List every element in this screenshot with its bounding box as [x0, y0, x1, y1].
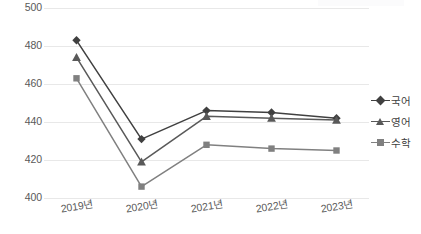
legend-item-label: 수학	[390, 137, 411, 149]
plot-area	[44, 8, 369, 198]
legend-item-1[interactable]: 국어	[371, 90, 421, 111]
y-axis-tick-label: 500	[8, 2, 42, 13]
legend-item-3[interactable]: 수학	[371, 132, 421, 153]
gridline	[44, 122, 369, 123]
y-axis-tick-label: 420	[8, 154, 42, 165]
y-axis-tick-label: 480	[8, 40, 42, 51]
y-axis-tick-label: 400	[8, 192, 42, 203]
legend-item-label: 국어	[390, 95, 411, 107]
y-axis-tick-label: 440	[8, 116, 42, 127]
legend-item-2[interactable]: 영어	[371, 111, 421, 132]
gridline	[44, 160, 369, 161]
legend-marker-diamond-icon	[371, 95, 390, 107]
gridline	[44, 46, 369, 47]
legend: 국어영어수학	[371, 90, 421, 153]
gridline	[44, 8, 369, 9]
y-axis-tick-label: 460	[8, 78, 42, 89]
line-chart: 500480460440420400 2019년2020년2021년2022년2…	[0, 0, 421, 234]
legend-marker-square-icon	[371, 137, 390, 149]
cropped-title-artifact	[318, 0, 404, 6]
legend-marker-triangle-icon	[371, 116, 390, 128]
gridline	[44, 84, 369, 85]
legend-item-label: 영어	[390, 116, 411, 128]
